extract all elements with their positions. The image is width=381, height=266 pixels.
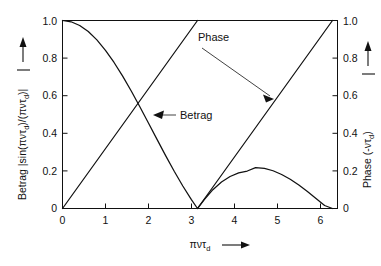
left-y-axis-title: Betrag |sin(πντd)/(πντd)|	[16, 37, 31, 200]
x-tick-label-1: 1	[103, 214, 109, 226]
y-right-tick-label-5: 1.0	[343, 15, 358, 27]
y-left-tick-label-5: 1.0	[42, 15, 57, 27]
phase-line-segment-2	[197, 21, 332, 209]
annotation-phase-arrowhead	[263, 95, 274, 103]
right-y-axis-arrow-head	[365, 41, 372, 51]
y-left-tick-label-0: 0	[51, 202, 57, 214]
x-axis-tick-labels: 0 1 2 3 4 5 6	[60, 214, 324, 226]
annotation-phase-label: Phase	[198, 31, 229, 43]
y-right-tick-label-3: 0.6	[343, 89, 358, 101]
right-y-axis-ticks	[333, 21, 338, 209]
sinc-magnitude-phase-chart: 0 1 2 3 4 5 6 0 0.2 0.4 0.6 0.8 1.0	[0, 0, 381, 266]
left-y-axis-ticks	[63, 21, 68, 209]
y-right-tick-label-1: 0.2	[343, 165, 358, 177]
y-right-tick-label-4: 0.8	[343, 52, 358, 64]
annotation-phase: Phase	[198, 31, 274, 103]
annotation-phase-leader	[202, 48, 270, 96]
left-y-axis-tick-labels: 0 0.2 0.4 0.6 0.8 1.0	[42, 15, 57, 215]
y-left-tick-label-3: 0.6	[42, 89, 57, 101]
y-left-tick-label-1: 0.2	[42, 165, 57, 177]
x-axis-title-subscript: d	[206, 244, 210, 253]
x-tick-label-2: 2	[146, 214, 152, 226]
y-right-tick-label-0: 0	[343, 202, 349, 214]
annotation-betrag: Betrag	[153, 109, 212, 121]
y-left-tick-label-4: 0.8	[42, 52, 57, 64]
x-axis-ticks	[63, 204, 321, 209]
x-tick-label-4: 4	[232, 214, 238, 226]
left-y-axis-title-body: |sin(πντ	[16, 129, 28, 166]
left-y-axis-arrow-head	[20, 37, 27, 47]
left-y-axis-title-prefix: Betrag	[16, 166, 28, 200]
y-left-tick-label-2: 0.4	[42, 127, 57, 139]
right-y-axis-tick-labels: 0 0.2 0.4 0.6 0.8 1.0	[343, 15, 358, 215]
right-y-axis-title: Phase (-ντd)	[361, 41, 376, 188]
annotation-betrag-label: Betrag	[180, 109, 212, 121]
x-axis-title-text: πντ	[190, 238, 207, 250]
x-axis-arrow-head	[241, 242, 250, 249]
x-tick-label-5: 5	[275, 214, 281, 226]
svg-text:πντd: πντd	[190, 238, 211, 253]
right-y-axis-title-tail: )	[361, 131, 373, 135]
left-y-axis-title-mid: )/(πντ	[16, 98, 28, 125]
phase-line-segment-1	[63, 21, 198, 209]
figure-container: 0 1 2 3 4 5 6 0 0.2 0.4 0.6 0.8 1.0	[0, 0, 381, 266]
svg-text:Phase (-ντd): Phase (-ντd)	[361, 131, 376, 188]
x-tick-label-0: 0	[60, 214, 66, 226]
x-tick-label-3: 3	[189, 214, 195, 226]
right-y-axis-title-body: Phase (-ντ	[361, 138, 373, 188]
annotation-betrag-arrowhead	[153, 111, 164, 120]
x-tick-label-6: 6	[318, 214, 324, 226]
svg-text:Betrag |sin(πντd)/(πντd)|: Betrag |sin(πντd)/(πντd)|	[16, 89, 31, 200]
y-right-tick-label-2: 0.4	[343, 127, 358, 139]
x-axis-title: πντd	[190, 238, 250, 253]
left-y-axis-title-tail: )|	[16, 89, 28, 95]
